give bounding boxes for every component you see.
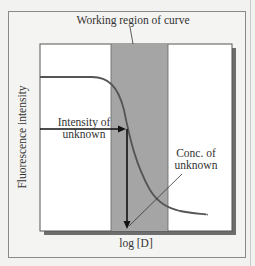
working-region <box>111 44 168 231</box>
x-axis-label: log [D] <box>119 237 153 250</box>
conc-label-line2: unknown <box>175 159 218 171</box>
intensity-label-line2: unknown <box>63 128 106 140</box>
diagram-title: Working region of curve <box>76 14 189 27</box>
fluorescence-diagram: Working region of curve Intensity of unk… <box>0 0 255 266</box>
title-leader-line <box>130 27 133 44</box>
conc-label-line1: Conc. of <box>176 147 216 159</box>
y-axis-label: Fluorescence intensity <box>16 85 29 188</box>
